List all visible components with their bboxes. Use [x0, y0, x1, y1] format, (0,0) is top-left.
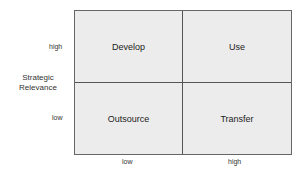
quadrant-label: Develop: [112, 42, 145, 52]
quadrant-label: Use: [229, 42, 245, 52]
x-tick-low: low: [122, 158, 133, 165]
quadrant-develop: Develop: [75, 11, 182, 82]
quadrant-outsource: Outsource: [75, 83, 182, 154]
y-tick-high: high: [49, 43, 62, 50]
y-axis-title-line2: Relevance: [8, 83, 68, 93]
quadrant-label: Outsource: [108, 114, 150, 124]
y-tick-low: low: [52, 114, 63, 121]
quadrant-label: Transfer: [220, 114, 253, 124]
strategy-matrix: Develop Use Outsource Transfer: [74, 10, 292, 155]
quadrant-use: Use: [183, 11, 291, 82]
quadrant-transfer: Transfer: [183, 83, 291, 154]
y-axis-title-line1: Strategic: [8, 73, 68, 83]
y-axis-title: Strategic Relevance: [8, 73, 68, 93]
x-tick-high: high: [228, 158, 241, 165]
